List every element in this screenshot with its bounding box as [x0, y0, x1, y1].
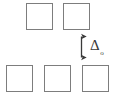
- delta-symbol: Δ: [90, 37, 100, 53]
- lattice-gap-diagram: Δo: [0, 0, 115, 97]
- gap-label: Δo: [90, 37, 103, 56]
- delta-subscript: o: [100, 49, 104, 57]
